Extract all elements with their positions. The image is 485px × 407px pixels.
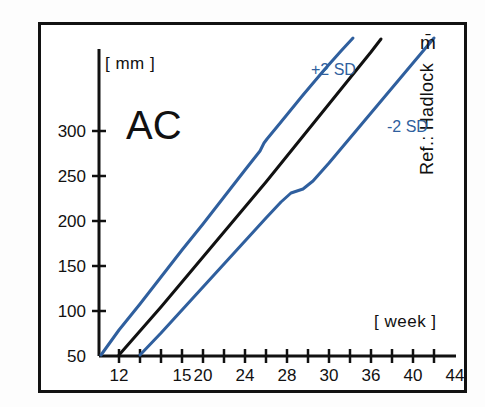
series-label-plus-2sd: +2 SD [311,62,356,78]
y-axis-unit-label: [ mm ] [105,55,155,72]
x-tick-label-20: 20 [186,367,220,384]
x-tick-label-36: 36 [354,367,388,384]
screenshot-root: 300 250 200 150 100 50 12 15 20 24 28 30… [0,0,485,407]
y-tick-label-300: 300 [40,123,86,140]
x-tick-label-30: 30 [312,367,346,384]
series-label-mean: m̄ [420,33,436,52]
measurement-title: AC [126,105,182,145]
growth-chart-panel: 300 250 200 150 100 50 12 15 20 24 28 30… [38,22,467,393]
curve-mean [119,39,381,355]
y-tick-label-100: 100 [40,303,86,320]
y-tick-label-200: 200 [40,213,86,230]
y-tick-label-50: 50 [40,348,86,365]
y-tick-label-250: 250 [40,168,86,185]
x-tick-label-24: 24 [228,367,262,384]
x-tick-label-28: 28 [270,367,304,384]
x-tick-label-44: 44 [438,367,472,384]
curve-plus-2sd [101,38,353,355]
y-tick-label-150: 150 [40,258,86,275]
x-axis-unit-label: [ week ] [374,313,437,330]
x-tick-label-12: 12 [102,367,136,384]
growth-chart-plot [41,25,464,390]
series-label-minus-2sd: -2 SD [387,119,428,135]
curve-minus-2sd [140,38,434,355]
x-tick-label-40: 40 [396,367,430,384]
